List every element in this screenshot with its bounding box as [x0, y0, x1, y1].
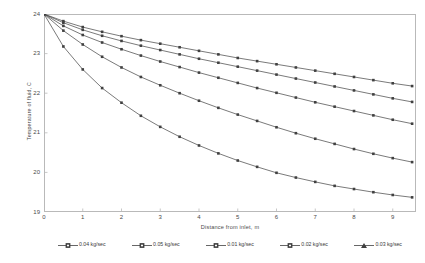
data-point-marker [314, 101, 317, 104]
data-point-marker [217, 76, 220, 79]
plot-canvas [44, 14, 416, 212]
data-point-marker [62, 45, 65, 48]
data-point-marker [353, 76, 356, 79]
data-point-marker [198, 50, 201, 53]
data-point-marker [314, 137, 317, 140]
data-point-marker [353, 110, 356, 113]
data-point-marker [178, 135, 181, 138]
chart-figure: 242322212019 Temperature of fluid, C 012… [0, 0, 425, 263]
data-point-marker [295, 96, 298, 99]
data-point-marker [198, 99, 201, 102]
legend-marker-icon [206, 242, 226, 249]
data-point-marker [411, 196, 414, 199]
legend-item-label: 0.02 kg/sec [301, 242, 328, 247]
legend-item-label: 0.01 kg/sec [227, 242, 254, 247]
x-tick-label: 1 [73, 214, 93, 220]
data-point-marker [256, 166, 259, 169]
data-point-marker [120, 40, 123, 43]
x-tick-label: 4 [189, 214, 209, 220]
data-point-marker [178, 53, 181, 56]
data-point-marker [178, 46, 181, 49]
data-point-marker [140, 76, 143, 79]
data-point-marker [372, 191, 375, 194]
legend-item[interactable]: 0.05 kg/sec [132, 242, 180, 249]
data-point-marker [256, 69, 259, 72]
series-line [44, 14, 412, 102]
x-tick-label: 2 [112, 214, 132, 220]
data-point-marker [81, 34, 84, 37]
data-point-marker [275, 172, 278, 175]
data-point-marker [236, 65, 239, 68]
data-point-marker [159, 42, 162, 45]
data-point-marker [159, 60, 162, 63]
data-point-marker [217, 53, 220, 56]
data-point-marker [159, 49, 162, 52]
data-point-marker [198, 71, 201, 74]
legend-item[interactable]: 0.02 kg/sec [280, 242, 328, 249]
data-point-marker [314, 81, 317, 84]
data-point-marker [391, 194, 394, 197]
data-point-marker [81, 43, 84, 46]
data-point-marker [353, 148, 356, 151]
data-point-marker [236, 159, 239, 162]
data-point-marker [353, 188, 356, 191]
series-0 [44, 14, 413, 103]
data-point-marker [275, 73, 278, 76]
data-point-marker [101, 34, 104, 37]
y-axis-title: Temperature of fluid, C [26, 31, 32, 191]
data-point-marker [256, 60, 259, 63]
data-point-marker [295, 66, 298, 69]
data-point-marker [236, 82, 239, 85]
data-point-marker [120, 66, 123, 69]
chart-legend: 0.04 kg/sec0.05 kg/sec0.01 kg/sec0.02 kg… [44, 239, 416, 251]
x-tick-label: 3 [150, 214, 170, 220]
series-line [44, 14, 412, 86]
x-tick-label: 5 [228, 214, 248, 220]
data-point-marker [236, 113, 239, 116]
data-point-marker [295, 132, 298, 135]
data-point-marker [353, 89, 356, 92]
data-point-marker [314, 69, 317, 72]
data-point-marker [411, 101, 414, 104]
y-tick-label: 24 [24, 11, 40, 17]
series-layer [44, 14, 413, 212]
data-point-marker [333, 105, 336, 108]
data-point-marker [101, 41, 104, 44]
data-point-marker [217, 152, 220, 155]
data-point-marker [275, 63, 278, 66]
data-point-marker [140, 44, 143, 47]
data-point-marker [120, 35, 123, 38]
legend-item[interactable]: 0.01 kg/sec [206, 242, 254, 249]
data-point-marker [236, 57, 239, 60]
data-point-marker [62, 20, 65, 23]
legend-item[interactable]: 0.03 kg/sec [354, 242, 402, 249]
data-point-marker [44, 14, 45, 15]
x-tick-label: 6 [267, 214, 287, 220]
data-point-marker [295, 176, 298, 179]
data-point-marker [81, 26, 84, 29]
data-point-marker [333, 85, 336, 88]
data-point-marker [120, 101, 123, 104]
legend-marker-icon [354, 242, 374, 249]
data-point-marker [101, 31, 104, 34]
legend-item-label: 0.03 kg/sec [375, 242, 402, 247]
legend-marker-icon [58, 242, 78, 249]
data-point-marker [120, 48, 123, 51]
data-point-marker [391, 97, 394, 100]
data-point-marker [159, 126, 162, 129]
data-point-marker [391, 82, 394, 85]
data-point-marker [411, 122, 414, 125]
data-point-marker [275, 92, 278, 95]
series-1 [44, 14, 413, 87]
data-point-marker [314, 181, 317, 184]
data-point-marker [333, 143, 336, 146]
data-point-marker [391, 118, 394, 121]
x-axis-title: Distance from inlet, m [44, 224, 416, 230]
data-point-marker [178, 92, 181, 95]
data-point-marker [275, 126, 278, 129]
data-point-marker [101, 87, 104, 90]
data-point-marker [101, 55, 104, 58]
data-point-marker [372, 93, 375, 96]
legend-item[interactable]: 0.04 kg/sec [58, 242, 106, 249]
data-point-marker [81, 29, 84, 32]
